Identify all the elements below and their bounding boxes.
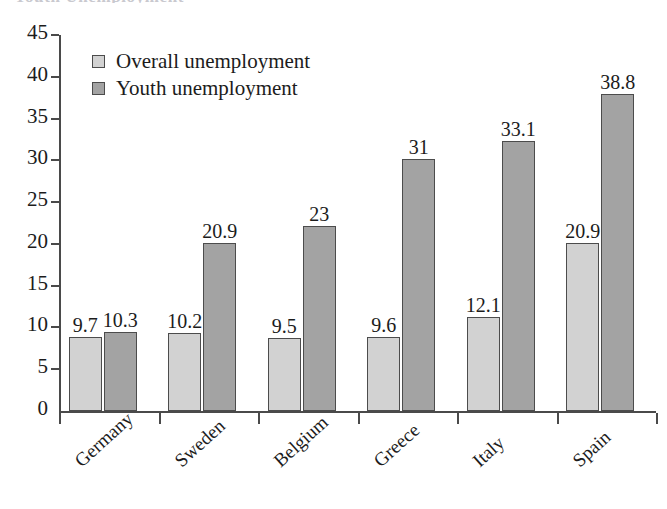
legend-swatch-youth	[92, 82, 105, 95]
bar-spain-overall[interactable]: 20.9	[566, 243, 599, 411]
bar-value-label: 23	[309, 204, 329, 224]
x-tick-mark	[159, 413, 161, 424]
bar-italy-overall[interactable]: 12.1	[467, 317, 500, 411]
category-label-belgium: Belgium	[270, 412, 331, 470]
bar-sweden-overall[interactable]: 10.2	[168, 333, 201, 411]
x-tick-mark	[656, 413, 658, 424]
bar-group: 20.938.8	[566, 35, 634, 411]
y-tick-mark	[51, 34, 59, 36]
bar-group: 9.631	[367, 35, 435, 411]
category-label-sweden: Sweden	[171, 416, 228, 470]
bar-value-label: 12.1	[466, 295, 501, 315]
y-tick-label: 45	[8, 22, 48, 43]
bar-value-label: 33.1	[501, 119, 536, 139]
bar-belgium-youth[interactable]: 23	[303, 226, 336, 411]
bar-value-label: 20.9	[565, 221, 600, 241]
y-tick-label: 30	[8, 147, 48, 168]
y-tick-label: 10	[8, 314, 48, 335]
y-axis-line	[59, 35, 61, 411]
legend-label: Overall unemployment	[116, 51, 310, 72]
bar-greece-overall[interactable]: 9.6	[367, 337, 400, 411]
legend-swatch-overall	[92, 55, 105, 68]
y-tick-mark	[51, 159, 59, 161]
bar-value-label: 9.7	[73, 315, 98, 335]
bar-value-label: 38.8	[600, 72, 635, 92]
y-tick-mark	[51, 243, 59, 245]
y-tick-mark	[51, 118, 59, 120]
legend-label: Youth unemployment	[116, 78, 298, 99]
y-tick-mark	[51, 326, 59, 328]
bar-greece-youth[interactable]: 31	[402, 159, 435, 411]
bar-germany-overall[interactable]: 9.7	[69, 337, 102, 411]
y-tick-label: 5	[8, 356, 48, 377]
y-tick-label: 0	[8, 398, 48, 419]
x-tick-mark	[457, 413, 459, 424]
bar-spain-youth[interactable]: 38.8	[601, 94, 634, 412]
y-tick-mark	[51, 285, 59, 287]
bar-value-label: 20.9	[202, 221, 237, 241]
bar-italy-youth[interactable]: 33.1	[502, 141, 535, 411]
bar-chart: Youth Unemployment 454035302520151050 9.…	[0, 0, 667, 509]
y-tick-label: 25	[8, 189, 48, 210]
bar-value-label: 31	[409, 137, 429, 157]
y-tick-mark	[51, 368, 59, 370]
bar-belgium-overall[interactable]: 9.5	[268, 338, 301, 411]
bar-germany-youth[interactable]: 10.3	[104, 332, 137, 411]
bar-value-label: 10.2	[167, 311, 202, 331]
bar-group: 12.133.1	[467, 35, 535, 411]
legend-item-overall[interactable]: Overall unemployment	[92, 48, 332, 75]
x-tick-mark	[59, 413, 61, 424]
x-tick-mark	[557, 413, 559, 424]
category-label-italy: Italy	[469, 433, 508, 470]
y-tick-label: 40	[8, 64, 48, 85]
x-tick-mark	[358, 413, 360, 424]
category-label-germany: Germany	[71, 409, 136, 470]
y-tick-label: 15	[8, 273, 48, 294]
y-tick-mark	[51, 201, 59, 203]
y-tick-mark	[51, 76, 59, 78]
bar-value-label: 9.5	[272, 316, 297, 336]
y-tick-label: 35	[8, 106, 48, 127]
y-tick-label: 20	[8, 231, 48, 252]
category-label-greece: Greece	[370, 420, 423, 470]
x-tick-mark	[258, 413, 260, 424]
bar-value-label: 10.3	[103, 310, 138, 330]
legend-item-youth[interactable]: Youth unemployment	[92, 75, 332, 102]
chart-legend: Overall unemploymentYouth unemployment	[92, 48, 332, 102]
bar-value-label: 9.6	[371, 315, 396, 335]
category-label-spain: Spain	[569, 427, 614, 470]
bar-sweden-youth[interactable]: 20.9	[203, 243, 236, 411]
cropped-header-text: Youth Unemployment	[14, 0, 314, 3]
